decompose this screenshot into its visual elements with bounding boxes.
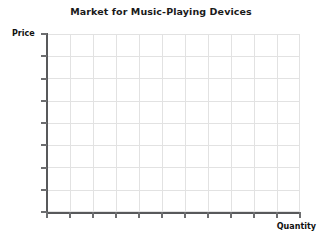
x-axis-tick [276, 212, 278, 218]
x-axis-tick [184, 212, 186, 218]
x-axis-tick [46, 212, 48, 218]
x-axis-tick [230, 212, 232, 218]
x-axis-tick [69, 212, 71, 218]
gridline-horizontal [47, 78, 300, 79]
y-axis-tick [41, 144, 47, 146]
plot-area [47, 34, 300, 212]
gridline-horizontal [47, 123, 300, 124]
x-axis-label: Quantity [277, 222, 316, 231]
x-axis-tick [299, 212, 301, 218]
x-axis-line [46, 212, 301, 214]
y-axis-label: Price [12, 29, 35, 38]
x-axis-tick [253, 212, 255, 218]
y-axis-tick [41, 122, 47, 124]
chart-screenshot: Market for Music-Playing Devices Price Q… [0, 0, 322, 238]
gridline-horizontal [47, 190, 300, 191]
x-axis-tick [138, 212, 140, 218]
y-axis-tick [41, 189, 47, 191]
gridline-horizontal [47, 145, 300, 146]
y-axis-tick [41, 55, 47, 57]
chart-title: Market for Music-Playing Devices [0, 6, 322, 17]
x-axis-tick [161, 212, 163, 218]
x-axis-tick [92, 212, 94, 218]
y-axis-tick [41, 78, 47, 80]
y-axis-tick [41, 167, 47, 169]
gridline-horizontal [47, 101, 300, 102]
gridline-horizontal [47, 56, 300, 57]
x-axis-tick [207, 212, 209, 218]
y-axis-tick [41, 33, 47, 35]
gridline-horizontal [47, 167, 300, 168]
x-axis-tick [115, 212, 117, 218]
gridline-horizontal [47, 34, 300, 35]
y-axis-tick [41, 100, 47, 102]
